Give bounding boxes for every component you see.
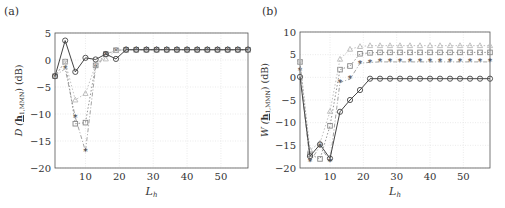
y-tick-label: 0: [45, 55, 51, 66]
series-line-circle: [300, 77, 490, 159]
marker-star: *: [83, 147, 88, 157]
y-axis-label: D (h1,MMN) (dB): [13, 65, 25, 138]
y-tick-label: −20: [275, 163, 296, 174]
y-tick-label: −15: [275, 140, 296, 151]
x-tick-label: 20: [113, 171, 126, 182]
marker-star: *: [468, 57, 473, 67]
y-tick-label: −5: [36, 82, 51, 93]
x-tick-label: 10: [324, 171, 337, 182]
x-tick-label: 20: [357, 171, 370, 182]
x-tick-label: 40: [181, 171, 194, 182]
y-tick-label: −10: [30, 109, 51, 120]
marker-star: *: [408, 57, 413, 67]
marker-square: [358, 51, 363, 56]
marker-triangle: [477, 43, 482, 48]
y-tick-label: 5: [45, 28, 51, 39]
series-line-star: [55, 50, 248, 152]
y-axis-label: W (h1,MMN) (dB): [259, 63, 271, 137]
marker-star: *: [378, 57, 383, 67]
x-axis-label: Lh: [388, 185, 401, 199]
y-tick-label: −10: [275, 117, 296, 128]
marker-star: *: [438, 57, 443, 67]
marker-star: *: [488, 57, 493, 67]
x-tick-label: 50: [457, 171, 470, 182]
series-line-triangle: [55, 50, 248, 100]
marker-star: *: [388, 57, 393, 67]
marker-square: [348, 64, 353, 69]
marker-star: *: [418, 57, 423, 67]
series-line-square: [55, 50, 248, 124]
x-tick-label: 50: [215, 171, 228, 182]
figure: 102030405050−5−10−15−20(a)LhD (h1,MMN) (…: [0, 0, 505, 208]
panel-label: (b): [262, 5, 278, 18]
panel-a: 102030405050−5−10−15−20(a)LhD (h1,MMN) (…: [4, 5, 251, 199]
series-line-square: [300, 52, 490, 159]
marker-star: *: [458, 57, 463, 67]
marker-square: [318, 157, 323, 162]
panel-label: (a): [4, 5, 19, 18]
y-tick-label: 5: [290, 49, 296, 60]
marker-star: *: [348, 74, 353, 84]
marker-star: *: [428, 57, 433, 67]
marker-triangle: [307, 147, 312, 152]
marker-star: *: [358, 59, 363, 69]
marker-star: *: [368, 58, 373, 68]
y-tick-label: −20: [30, 163, 51, 174]
y-tick-label: −5: [281, 95, 296, 106]
y-tick-label: −15: [30, 136, 51, 147]
x-tick-label: 30: [390, 171, 403, 182]
y-tick-label: 10: [283, 27, 296, 38]
marker-star: *: [448, 57, 453, 67]
marker-triangle: [407, 43, 412, 48]
x-tick-label: 30: [147, 171, 160, 182]
x-tick-label: 10: [79, 171, 92, 182]
x-tick-label: 40: [424, 171, 437, 182]
y-tick-label: 0: [290, 72, 296, 83]
x-axis-label: Lh: [145, 185, 158, 199]
marker-star: *: [478, 57, 483, 67]
panel-b: 10203040501050−5−10−15−20(b)LhW (h1,MMN)…: [259, 5, 493, 199]
marker-star: *: [398, 57, 403, 67]
